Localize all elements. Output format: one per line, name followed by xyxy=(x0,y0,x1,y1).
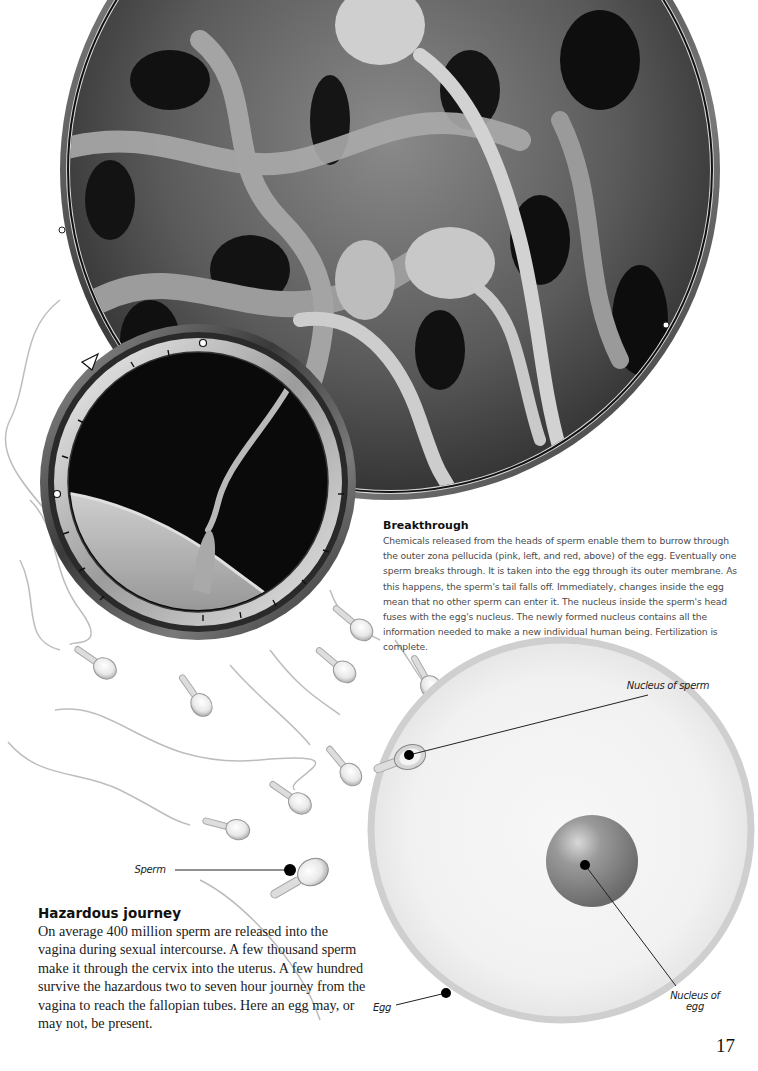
hazardous-journey-heading: Hazardous journey xyxy=(38,905,368,921)
breakthrough-section: Breakthrough Chemicals released from the… xyxy=(383,519,743,655)
label-nucleus-of-sperm: Nucleus of sperm xyxy=(618,680,718,691)
egg-illustration xyxy=(370,640,751,1020)
label-nucleus-of-egg: Nucleus of egg xyxy=(660,990,730,1012)
small-micrograph xyxy=(40,324,356,640)
label-sperm: Sperm xyxy=(128,864,172,875)
label-egg: Egg xyxy=(368,1002,396,1013)
hazardous-journey-body: On average 400 million sperm are release… xyxy=(38,922,368,1032)
breakthrough-body: Chemicals released from the heads of spe… xyxy=(383,533,743,655)
breakthrough-heading: Breakthrough xyxy=(383,519,743,532)
hazardous-journey-section: Hazardous journey On average 400 million… xyxy=(38,905,368,1032)
page-number: 17 xyxy=(716,1035,735,1057)
